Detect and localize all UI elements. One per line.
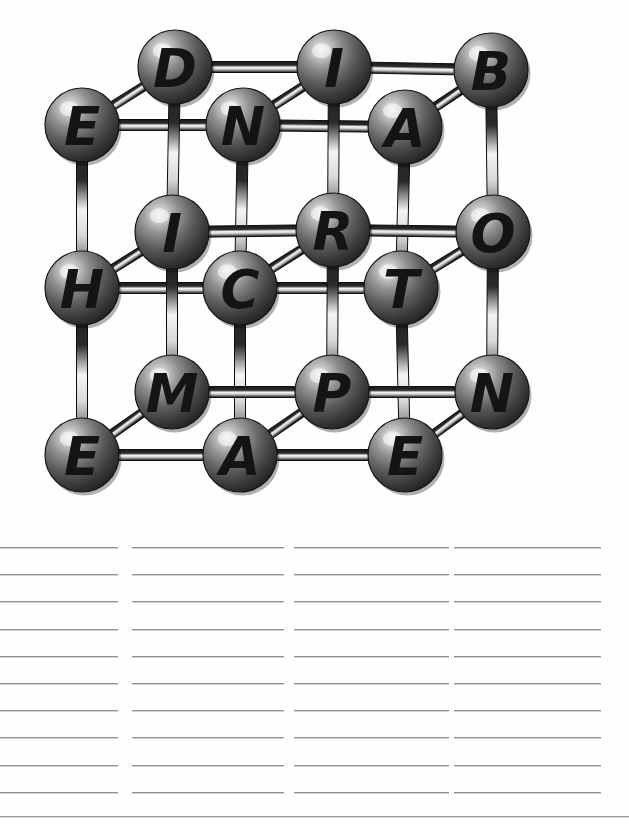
- answer-line[interactable]: [294, 765, 449, 767]
- sphere-body: [455, 355, 529, 429]
- lattice-node-t-11[interactable]: T: [364, 251, 441, 329]
- lattice-node-o-12[interactable]: O: [456, 195, 533, 273]
- sphere-specular-highlight: [383, 103, 402, 118]
- sphere-specular-highlight: [150, 208, 169, 223]
- sphere-body: [45, 251, 119, 325]
- sphere-specular-highlight: [153, 43, 172, 58]
- sphere-specular-highlight: [312, 43, 331, 58]
- answer-lines-area: [0, 520, 629, 824]
- sphere-specular-highlight: [310, 368, 329, 383]
- sphere-body: [45, 88, 119, 162]
- page-bottom-rule: [0, 816, 629, 818]
- answer-line-column[interactable]: [454, 520, 601, 824]
- answer-line[interactable]: [454, 574, 601, 576]
- answer-line[interactable]: [0, 656, 118, 658]
- answer-line-column[interactable]: [294, 520, 449, 824]
- answer-line[interactable]: [132, 737, 284, 739]
- answer-line[interactable]: [0, 601, 118, 603]
- answer-line[interactable]: [0, 574, 118, 576]
- sphere-specular-highlight: [60, 431, 79, 446]
- sphere-body: [138, 30, 212, 104]
- answer-line[interactable]: [294, 792, 449, 794]
- answer-line[interactable]: [454, 765, 601, 767]
- sphere-specular-highlight: [471, 208, 490, 223]
- answer-line[interactable]: [132, 765, 284, 767]
- sphere-body: [368, 90, 442, 164]
- answer-line[interactable]: [454, 601, 601, 603]
- answer-line[interactable]: [0, 629, 118, 631]
- lattice-node-b-6[interactable]: B: [454, 33, 531, 111]
- answer-line-column[interactable]: [0, 520, 118, 824]
- lattice-node-n-18[interactable]: N: [455, 355, 532, 433]
- lattice-node-m-14[interactable]: M: [135, 355, 212, 433]
- sphere-specular-highlight: [469, 46, 488, 61]
- sphere-body: [135, 195, 209, 269]
- lattice-node-i-4[interactable]: I: [297, 30, 374, 108]
- answer-line[interactable]: [294, 737, 449, 739]
- answer-line[interactable]: [294, 656, 449, 658]
- answer-line[interactable]: [0, 547, 118, 549]
- answer-line[interactable]: [0, 737, 118, 739]
- answer-line[interactable]: [454, 710, 601, 712]
- sphere-specular-highlight: [470, 368, 489, 383]
- sphere-body: [135, 355, 209, 429]
- sphere-body: [203, 251, 277, 325]
- cube-lattice-diagram: EDNIABHICRTOEMAPEN: [0, 0, 629, 520]
- answer-line[interactable]: [132, 601, 284, 603]
- answer-line[interactable]: [132, 683, 284, 685]
- sphere-specular-highlight: [311, 206, 330, 221]
- sphere-specular-highlight: [383, 431, 402, 446]
- answer-line-column[interactable]: [132, 520, 284, 824]
- lattice-node-n-3[interactable]: N: [206, 88, 283, 166]
- lattice-node-i-8[interactable]: I: [135, 195, 212, 273]
- lattice-node-a-15[interactable]: A: [203, 418, 280, 496]
- answer-line[interactable]: [454, 629, 601, 631]
- sphere-specular-highlight: [60, 264, 79, 279]
- answer-line[interactable]: [0, 710, 118, 712]
- sphere-body: [295, 355, 369, 429]
- sphere-specular-highlight: [218, 431, 237, 446]
- answer-line[interactable]: [294, 547, 449, 549]
- lattice-node-a-5[interactable]: A: [368, 90, 445, 168]
- answer-line[interactable]: [132, 574, 284, 576]
- answer-line[interactable]: [132, 792, 284, 794]
- sphere-body: [45, 418, 119, 492]
- answer-line[interactable]: [294, 683, 449, 685]
- answer-line[interactable]: [0, 792, 118, 794]
- sphere-body: [297, 30, 371, 104]
- lattice-node-d-2[interactable]: D: [138, 30, 215, 108]
- sphere-specular-highlight: [60, 101, 79, 116]
- worksheet-page: EDNIABHICRTOEMAPEN: [0, 0, 629, 824]
- answer-line[interactable]: [132, 656, 284, 658]
- sphere-body: [206, 88, 280, 162]
- sphere-specular-highlight: [221, 101, 240, 116]
- lattice-node-h-7[interactable]: H: [45, 251, 122, 329]
- sphere-body: [456, 195, 530, 269]
- sphere-body: [454, 33, 528, 107]
- sphere-body: [296, 193, 370, 267]
- sphere-body: [368, 418, 442, 492]
- sphere-body: [203, 418, 277, 492]
- answer-line[interactable]: [454, 792, 601, 794]
- answer-line[interactable]: [454, 547, 601, 549]
- answer-line[interactable]: [132, 629, 284, 631]
- answer-line[interactable]: [294, 574, 449, 576]
- answer-line[interactable]: [454, 683, 601, 685]
- lattice-node-p-16[interactable]: P: [295, 355, 372, 433]
- answer-line[interactable]: [132, 547, 284, 549]
- lattice-node-e-1[interactable]: E: [45, 88, 122, 166]
- answer-line[interactable]: [454, 737, 601, 739]
- answer-line[interactable]: [294, 710, 449, 712]
- answer-line[interactable]: [294, 629, 449, 631]
- lattice-node-r-10[interactable]: R: [296, 193, 373, 271]
- lattice-svg: EDNIABHICRTOEMAPEN: [0, 0, 629, 520]
- answer-line[interactable]: [132, 710, 284, 712]
- answer-line[interactable]: [0, 683, 118, 685]
- lattice-node-c-9[interactable]: C: [203, 251, 280, 329]
- sphere-body: [364, 251, 438, 325]
- answer-line[interactable]: [294, 601, 449, 603]
- answer-line[interactable]: [0, 765, 118, 767]
- answer-line[interactable]: [454, 656, 601, 658]
- sphere-specular-highlight: [150, 368, 169, 383]
- sphere-specular-highlight: [218, 264, 237, 279]
